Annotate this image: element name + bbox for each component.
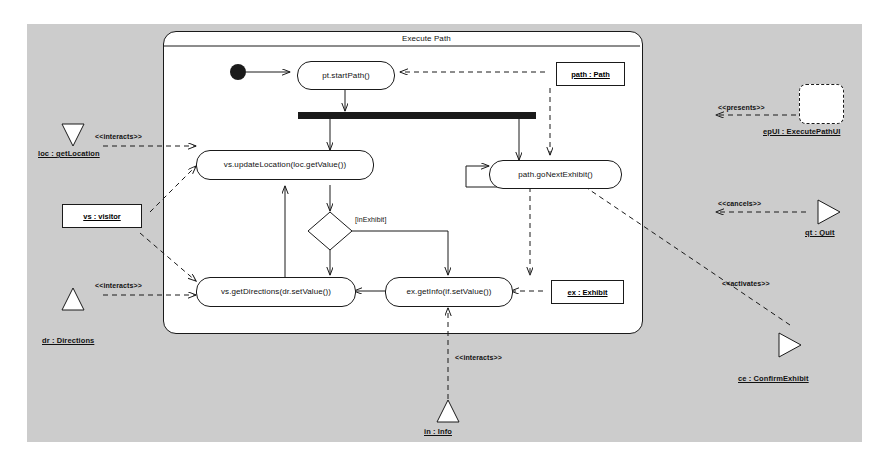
object-visitor[interactable]: vs : visitor xyxy=(62,204,142,228)
object-path[interactable]: path : Path xyxy=(556,62,625,86)
frame-title: Execute Path xyxy=(402,35,451,43)
object-label: ex : Exhibit xyxy=(567,288,607,297)
actor-label-directions: dr : Directions xyxy=(42,337,94,345)
diagram-stage: pt.startPath() vs.updateLocation(loc.get… xyxy=(0,0,894,471)
stereotype-cancels: <<cancels>> xyxy=(718,200,761,207)
action-label: vs.getDirections(dr.setValue()) xyxy=(221,288,331,296)
stereotype-interacts-info: <<interacts>> xyxy=(455,354,502,361)
actor-label-confirm-exhibit: ce : ConfirmExhibit xyxy=(738,375,809,383)
action-get-info[interactable]: ex.getInfo(if.setValue()) xyxy=(385,277,513,307)
object-label: vs : visitor xyxy=(83,212,121,221)
action-go-next-exhibit[interactable]: path.goNextExhibit() xyxy=(489,160,622,189)
stereotype-presents: <<presents>> xyxy=(718,104,765,111)
stereotype-interacts-location: <<interacts>> xyxy=(95,133,142,140)
action-get-directions[interactable]: vs.getDirections(dr.setValue()) xyxy=(196,277,356,307)
action-label: vs.updateLocation(loc.getValue()) xyxy=(224,161,346,169)
stereotype-activates: <<activates>> xyxy=(722,280,770,287)
action-label: ex.getInfo(if.setValue()) xyxy=(406,288,491,296)
stereotype-interacts-directions: <<interacts>> xyxy=(95,282,142,289)
guard-in-exhibit: [inExhibit] xyxy=(355,216,386,223)
execute-path-ui-component[interactable] xyxy=(799,84,844,124)
actor-label-get-location: loc : getLocation xyxy=(38,150,100,158)
actor-label-info: in : Info xyxy=(424,428,452,436)
actor-label-quit: qt : Quit xyxy=(805,229,835,237)
action-label: pt.startPath() xyxy=(322,72,370,80)
action-label: path.goNextExhibit() xyxy=(518,171,592,179)
actor-label-execute-path-ui: epUI : ExecutePathUI xyxy=(763,128,840,136)
action-update-location[interactable]: vs.updateLocation(loc.getValue()) xyxy=(196,150,374,180)
action-start-path[interactable]: pt.startPath() xyxy=(297,61,395,90)
object-exhibit[interactable]: ex : Exhibit xyxy=(551,280,624,304)
object-label: path : Path xyxy=(571,70,610,79)
